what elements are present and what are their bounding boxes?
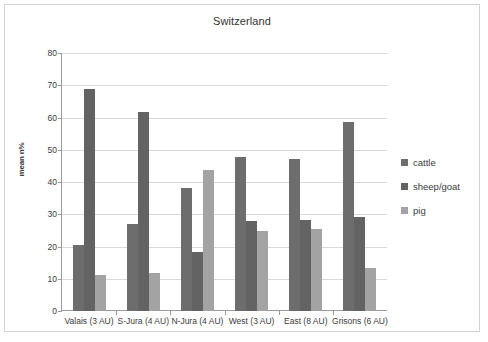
- legend-label: sheep/goat: [413, 181, 460, 192]
- bar[interactable]: [192, 252, 203, 311]
- x-axis-tick: [225, 311, 226, 315]
- chart-frame: Switzerland mean n% 01020304050607080 Va…: [4, 4, 480, 332]
- bar[interactable]: [84, 89, 95, 311]
- bar[interactable]: [203, 170, 214, 311]
- legend-label: cattle: [413, 157, 436, 168]
- bar-group: [279, 53, 333, 311]
- y-axis-title: mean n%: [17, 130, 26, 190]
- bar-group: [225, 53, 279, 311]
- bar[interactable]: [127, 224, 138, 311]
- legend-item[interactable]: cattle: [401, 157, 481, 168]
- bar-group: [333, 53, 387, 311]
- bar-group: [170, 53, 224, 311]
- bar[interactable]: [300, 220, 311, 311]
- y-axis-tick-label: 60: [31, 113, 57, 123]
- x-axis-tick: [279, 311, 280, 315]
- bar[interactable]: [365, 268, 376, 311]
- bar[interactable]: [354, 217, 365, 311]
- y-axis-tick-label: 70: [31, 80, 57, 90]
- y-axis-tick-label: 50: [31, 145, 57, 155]
- bar[interactable]: [246, 221, 257, 311]
- y-axis-tick-label: 80: [31, 48, 57, 58]
- y-axis-tick: [58, 311, 62, 312]
- legend-swatch-icon: [401, 183, 408, 190]
- bar[interactable]: [73, 245, 84, 311]
- x-axis-tick: [170, 311, 171, 315]
- x-axis-tick-label: Grisons (6 AU): [325, 316, 395, 326]
- legend-item[interactable]: pig: [401, 205, 481, 216]
- legend-swatch-icon: [401, 207, 408, 214]
- y-axis-tick-label: 30: [31, 209, 57, 219]
- x-axis-tick: [116, 311, 117, 315]
- legend-swatch-icon: [401, 159, 408, 166]
- y-axis-tick-labels: 01020304050607080: [27, 53, 57, 311]
- bar[interactable]: [149, 273, 160, 311]
- bar[interactable]: [289, 159, 300, 311]
- chart-title: Switzerland: [5, 15, 479, 27]
- bar-group: [116, 53, 170, 311]
- y-axis-tick-label: 40: [31, 177, 57, 187]
- x-axis-tick-labels: Valais (3 AU)S-Jura (4 AU)N-Jura (4 AU)W…: [57, 316, 389, 332]
- y-axis-tick-label: 10: [31, 274, 57, 284]
- bar-group: [62, 53, 116, 311]
- bar[interactable]: [343, 122, 354, 311]
- bar[interactable]: [138, 112, 149, 311]
- legend-label: pig: [413, 205, 426, 216]
- x-axis-tick: [333, 311, 334, 315]
- bar[interactable]: [235, 157, 246, 311]
- legend-item[interactable]: sheep/goat: [401, 181, 481, 192]
- bar[interactable]: [95, 275, 106, 311]
- y-axis-tick-label: 20: [31, 242, 57, 252]
- chart-legend: cattlesheep/goatpig: [401, 157, 481, 229]
- bar[interactable]: [181, 188, 192, 311]
- y-axis-tick-label: 0: [31, 306, 57, 316]
- bar[interactable]: [311, 229, 322, 311]
- bars-layer: [62, 53, 387, 311]
- bar[interactable]: [257, 231, 268, 311]
